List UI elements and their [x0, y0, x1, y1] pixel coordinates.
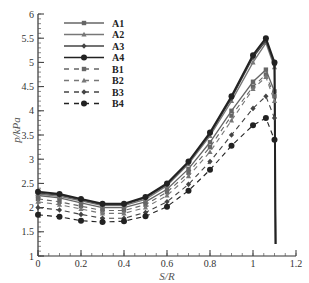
x-tick-label: 0.8: [204, 258, 217, 269]
x-axis-title: S/R: [159, 270, 175, 282]
legend-item-a1: A1: [64, 18, 124, 29]
y-axis-title: p/kPa: [10, 117, 22, 144]
x-tick-label: 1.2: [290, 258, 303, 269]
legend-item-a4: A4: [64, 52, 124, 63]
series-b2: [35, 74, 277, 215]
line-chart: 00.20.40.60.811.211.522.533.544.555.56 A…: [0, 0, 309, 283]
legend-item-b4: B4: [64, 98, 124, 109]
series-b4: [35, 115, 278, 225]
series-a1: [36, 67, 277, 243]
legend-label: A4: [112, 52, 124, 63]
y-tick-label: 1: [29, 251, 34, 262]
legend-label: B3: [112, 87, 124, 98]
legend-label: A3: [112, 41, 124, 52]
y-tick-label: 3.5: [22, 130, 35, 141]
y-tick-label: 3: [29, 154, 34, 165]
x-tick-label: 0.6: [161, 258, 174, 269]
legend-label: B4: [112, 98, 124, 109]
y-tick-label: 4: [29, 105, 34, 116]
y-tick-label: 5.5: [22, 33, 35, 44]
y-tick-label: 4.5: [22, 81, 35, 92]
legend-item-b3: B3: [64, 87, 124, 98]
x-tick-label: 0: [36, 258, 41, 269]
y-tick-label: 6: [29, 9, 34, 20]
series-a4: [35, 35, 278, 244]
x-tick-label: 0.2: [75, 258, 88, 269]
legend-item-a3: A3: [64, 41, 124, 52]
y-tick-label: 2: [29, 202, 34, 213]
x-tick-label: 0.4: [118, 258, 131, 269]
y-tick-label: 1.5: [22, 226, 35, 237]
legend-item-a2: A2: [64, 29, 124, 40]
legend-label: A2: [112, 29, 124, 40]
series-layer: [35, 35, 278, 244]
y-tick-label: 2.5: [22, 178, 35, 189]
legend-item-b1: B1: [64, 64, 124, 75]
legend-label: B2: [112, 75, 124, 86]
y-tick-label: 5: [29, 57, 34, 68]
x-tick-label: 1: [251, 258, 256, 269]
legend: A1A2A3A4B1B2B3B4: [64, 18, 124, 110]
series-a2: [35, 40, 277, 244]
series-a3: [35, 38, 277, 244]
legend-item-b2: B2: [64, 75, 124, 86]
legend-label: B1: [112, 64, 124, 75]
legend-label: A1: [112, 18, 124, 29]
